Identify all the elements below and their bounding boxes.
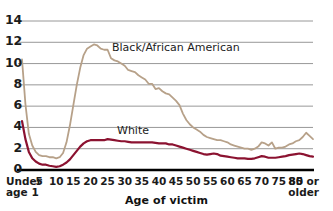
y-axis-tick-label: 14 [0,14,22,27]
x-axis-title: Age of victim [0,194,333,207]
series-line-black-african-american [22,44,313,158]
y-axis-tick-label: 12 [0,35,22,48]
y-axis-tick-label: 2 [0,142,22,155]
y-axis-tick-label: 0 [0,163,22,176]
y-axis-tick-label: 10 [0,57,22,70]
series-label-white: White [117,124,149,137]
line-chart: 02468101214 Under age 151015202530354045… [0,0,333,211]
y-axis-tick-label: 6 [0,99,22,112]
y-axis-tick-label: 8 [0,78,22,91]
series-label-black-african-american: Black/African American [112,41,240,54]
y-axis-tick-label: 4 [0,120,22,133]
